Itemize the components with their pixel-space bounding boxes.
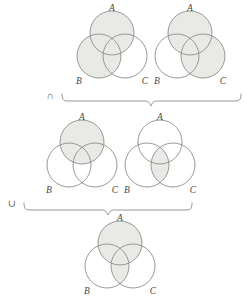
brace-middle [24,203,192,215]
label-a: A [186,3,193,13]
label-b: B [76,76,82,86]
label-c: C [142,76,149,86]
operator-intersection: ∩ [46,90,53,101]
label-a: A [78,112,85,122]
label-b: B [124,185,130,195]
label-c: C [150,286,157,296]
venn-diagram-2: A B C [154,3,227,86]
venn-shading-diagram-5 [98,221,155,288]
venn-diagram-4: A B C [124,112,197,195]
venn-diagram-3: A B C [46,112,119,195]
label-b: B [46,185,52,195]
label-b: B [154,76,160,86]
label-c: C [190,185,197,195]
venn-diagram-1: A B C [76,3,149,86]
label-b: B [84,286,90,296]
label-c: C [112,185,119,195]
label-a: A [156,112,163,122]
label-a: A [116,213,123,223]
label-a: A [108,3,115,13]
operator-union: ∪ [8,198,16,209]
brace-top [62,94,241,106]
venn-figure-canvas: A B C A B C ∩ A [0,0,246,306]
venn-diagram-5: A B C [84,213,157,296]
label-c: C [220,76,227,86]
venn-shading-diagram-2 [168,11,225,78]
venn-shading-diagram-1 [77,11,134,78]
venn-figure-root: A B C A B C ∩ A [0,0,246,306]
